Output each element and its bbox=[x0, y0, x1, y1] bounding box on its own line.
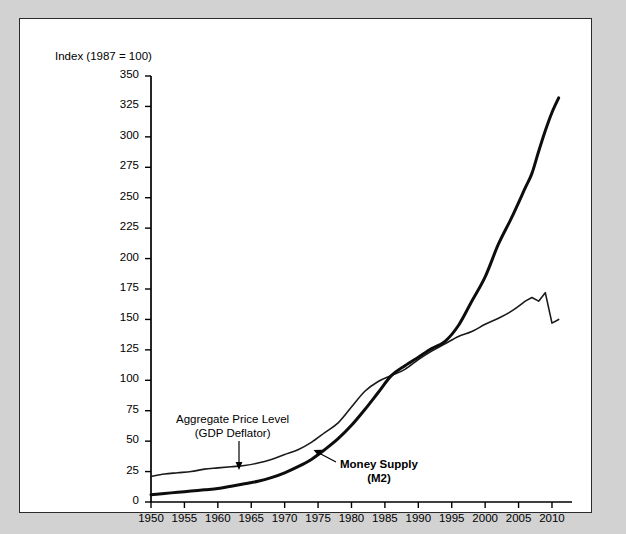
y-tick-label: 150 bbox=[93, 311, 139, 323]
annotation-money-supply-line1: Money Supply bbox=[340, 458, 418, 470]
figure-root: Index (1987 = 100) 025507510012515017520… bbox=[0, 0, 626, 534]
y-tick-label: 175 bbox=[93, 281, 139, 293]
y-tick-label: 275 bbox=[93, 159, 139, 171]
x-tick-label: 2010 bbox=[524, 512, 580, 524]
annotation-aggregate-price-level: Aggregate Price Level (GDP Deflator) bbox=[176, 412, 289, 440]
annotation-aggregate-price-level-line1: Aggregate Price Level bbox=[176, 413, 289, 425]
annotation-aggregate-price-level-line2: (GDP Deflator) bbox=[176, 426, 289, 440]
annotation-money-supply-line2: (M2) bbox=[340, 471, 418, 485]
y-tick-label: 50 bbox=[93, 433, 139, 445]
y-tick-label: 0 bbox=[93, 494, 139, 506]
chart-axis-title: Index (1987 = 100) bbox=[55, 50, 152, 62]
y-tick-label: 325 bbox=[93, 98, 139, 110]
y-tick-label: 125 bbox=[93, 342, 139, 354]
y-tick-label: 75 bbox=[93, 403, 139, 415]
y-tick-label: 200 bbox=[93, 251, 139, 263]
y-tick-label: 250 bbox=[93, 190, 139, 202]
y-tick-label: 100 bbox=[93, 372, 139, 384]
y-tick-label: 300 bbox=[93, 129, 139, 141]
y-tick-label: 350 bbox=[93, 68, 139, 80]
y-tick-label: 225 bbox=[93, 220, 139, 232]
y-tick-label: 25 bbox=[93, 464, 139, 476]
annotation-money-supply: Money Supply (M2) bbox=[340, 457, 418, 485]
